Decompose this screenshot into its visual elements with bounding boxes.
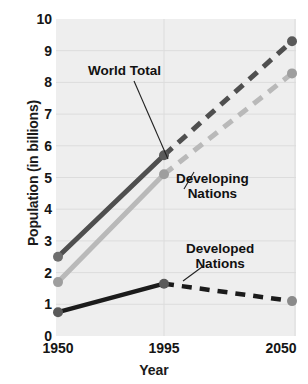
- y-tick-7: 7: [24, 107, 52, 121]
- y-tick-6: 6: [24, 139, 52, 153]
- x-tick-2050: 2050: [265, 340, 296, 356]
- developing-dashed-segment: [164, 73, 292, 174]
- world-total-point-1950: [53, 252, 63, 262]
- y-tick-9: 9: [24, 44, 52, 58]
- annotation-developed-nations: Developed Nations: [186, 242, 254, 271]
- x-tick-1995: 1995: [148, 340, 179, 356]
- annotation-developed-line2: Nations: [186, 257, 254, 272]
- leader-line-world-total: [134, 81, 168, 159]
- x-tick-1950: 1950: [42, 340, 73, 356]
- annotation-developing-line2: Nations: [176, 187, 249, 202]
- annotation-developed-line1: Developed: [186, 242, 254, 257]
- y-tick-5: 5: [24, 171, 52, 185]
- y-tick-3: 3: [24, 234, 52, 248]
- annotation-world-total: World Total: [88, 64, 161, 79]
- population-line-chart: Population (in billions) 10 9 8 7 6 5 4 …: [0, 0, 308, 384]
- annotation-developing-nations: Developing Nations: [176, 172, 249, 201]
- x-axis-title: Year: [0, 362, 308, 378]
- x-axis-tick-labels: 1950 1995 2050: [0, 340, 308, 360]
- developing-solid-segment: [58, 174, 164, 282]
- y-axis-tick-labels: 10 9 8 7 6 5 4 3 2 1 0: [24, 0, 52, 384]
- world-total-dashed-segment: [164, 41, 292, 155]
- developed-dashed-segment: [164, 284, 292, 301]
- y-tick-1: 1: [24, 297, 52, 311]
- developing-point-1995: [159, 169, 169, 179]
- developed-point-2050: [287, 296, 297, 306]
- developing-point-1950: [53, 277, 63, 287]
- developed-point-1950: [53, 307, 63, 317]
- annotation-developing-line1: Developing: [176, 172, 249, 187]
- developing-point-2050: [287, 68, 297, 78]
- world-total-point-2050: [287, 36, 297, 46]
- y-tick-4: 4: [24, 202, 52, 216]
- series-developed-nations: [53, 279, 297, 318]
- y-tick-2: 2: [24, 266, 52, 280]
- world-total-solid-segment: [58, 155, 164, 256]
- y-tick-8: 8: [24, 75, 52, 89]
- y-tick-10: 10: [24, 12, 52, 26]
- developed-solid-segment: [58, 284, 164, 313]
- developed-point-1995: [159, 279, 169, 289]
